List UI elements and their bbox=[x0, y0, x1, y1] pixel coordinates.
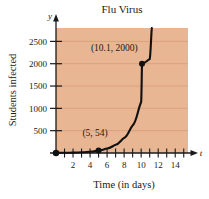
point-label: (10.1, 2000) bbox=[91, 43, 138, 54]
data-point bbox=[139, 61, 145, 67]
y-tick-label: 2000 bbox=[29, 59, 48, 69]
x-tick-label: 4 bbox=[88, 160, 93, 170]
origin-point bbox=[53, 150, 59, 156]
point-label: (5, 54) bbox=[82, 128, 107, 139]
x-tick-label: 12 bbox=[154, 160, 163, 170]
y-axis-symbol: y bbox=[47, 11, 52, 21]
y-tick-label: 500 bbox=[34, 126, 48, 136]
x-tick-label: 6 bbox=[105, 160, 110, 170]
y-tick-label: 2500 bbox=[29, 37, 48, 47]
data-point bbox=[96, 148, 102, 154]
chart-title: Flu Virus bbox=[101, 3, 142, 15]
flu-virus-chart: Flu Virus y t 5001000150020002500 246810… bbox=[0, 0, 209, 199]
x-tick-label: 2 bbox=[71, 160, 76, 170]
chart-figure: Flu Virus y t 5001000150020002500 246810… bbox=[0, 0, 209, 199]
y-tick-label: 1500 bbox=[29, 81, 48, 91]
y-tick-label: 1000 bbox=[29, 104, 48, 114]
x-tick-label: 10 bbox=[137, 160, 147, 170]
y-axis-title: Students infected bbox=[7, 53, 18, 126]
x-tick-label: 8 bbox=[122, 160, 127, 170]
x-axis-title: Time (in days) bbox=[93, 179, 155, 191]
x-tick-label: 14 bbox=[171, 160, 181, 170]
